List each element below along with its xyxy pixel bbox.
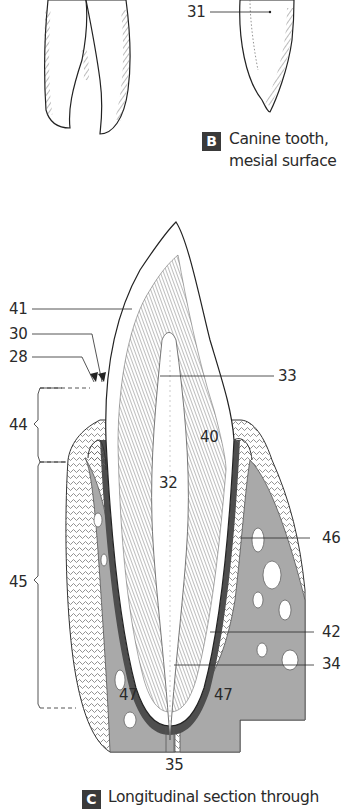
canine-mesial-drawing (210, 0, 294, 112)
label-32: 32 (159, 476, 178, 491)
label-44: 44 (9, 418, 28, 433)
figure-b-caption-line2: mesial surface (229, 152, 336, 171)
figure-c-badge: C (82, 790, 101, 809)
label-46: 46 (322, 531, 341, 546)
figure-b-caption-line1: Canine tooth, (229, 130, 328, 149)
label-42: 42 (322, 625, 341, 640)
label-40: 40 (200, 430, 219, 445)
label-30: 30 (9, 327, 28, 342)
label-31: 31 (187, 5, 206, 20)
figure-b-badge: B (202, 132, 221, 151)
label-28: 28 (9, 350, 28, 365)
figure-c-caption: Longitudinal section through (108, 788, 319, 807)
label-41: 41 (9, 302, 28, 317)
label-47-left: 47 (119, 688, 138, 703)
molar-roots-drawing (45, 0, 130, 134)
label-47-right: 47 (214, 688, 233, 703)
label-33: 33 (278, 369, 297, 384)
canine-section-drawing (66, 222, 305, 752)
label-45: 45 (9, 575, 28, 590)
label-35: 35 (165, 758, 184, 773)
label-34: 34 (322, 657, 341, 672)
